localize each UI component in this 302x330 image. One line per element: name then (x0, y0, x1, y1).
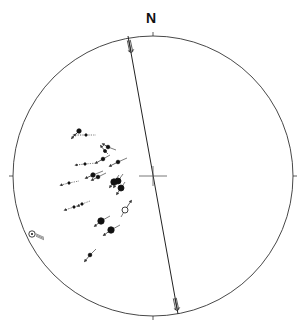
fault-sense-icon (126, 40, 135, 54)
stria-marker (85, 249, 96, 261)
stria-marker (76, 163, 97, 165)
stria-marker (74, 134, 96, 136)
stria-marker (96, 155, 110, 163)
stria-marker (104, 225, 120, 235)
stria-marker (110, 158, 127, 166)
filled-dot-icon (101, 157, 105, 161)
stria-marker (103, 144, 116, 150)
stria-marker (61, 181, 79, 185)
filled-dot-icon (106, 145, 110, 149)
stria-marker (95, 216, 110, 226)
filled-dot-icon (91, 173, 95, 177)
filled-dot-icon (104, 150, 107, 153)
filled-dot-icon (68, 182, 70, 184)
filled-dot-icon (118, 185, 124, 191)
filled-dot-icon (77, 129, 81, 133)
filled-dot-icon (98, 218, 104, 224)
north-label: N (146, 10, 156, 26)
bullseye-inner-icon (31, 233, 33, 235)
filled-dot-icon (73, 206, 75, 208)
stereonet-diagram: N (0, 0, 302, 330)
stria-marker (72, 129, 81, 138)
striae-markers (61, 129, 131, 261)
filled-dot-icon (84, 163, 86, 165)
stria-marker (86, 171, 103, 178)
filled-dot-icon (85, 134, 87, 136)
bullseye-marker (29, 231, 44, 240)
stria-marker (78, 201, 90, 206)
filled-dot-icon (96, 175, 100, 179)
filled-dot-icon (116, 160, 120, 164)
stereonet-svg (0, 0, 302, 330)
stria-tail (85, 163, 97, 164)
center-cross (139, 166, 167, 186)
filled-dot-icon (108, 227, 114, 233)
filled-dot-icon (115, 178, 121, 184)
filled-dot-icon (88, 253, 92, 257)
stria-marker (121, 201, 131, 217)
filled-dot-icon (81, 203, 83, 205)
open-circle-icon (122, 207, 128, 213)
fault-sense-icon (172, 298, 181, 312)
